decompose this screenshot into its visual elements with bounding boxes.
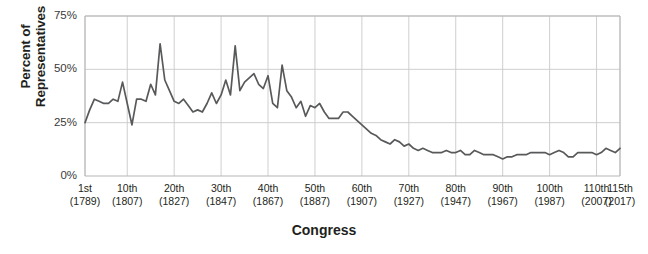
x-tick-congress-label: 10th <box>117 182 137 194</box>
y-axis-tick-25: 25% <box>33 116 77 128</box>
x-tick-congress-label: 1st <box>78 182 92 194</box>
x-axis-title: Congress <box>0 222 648 238</box>
x-tick-year-label: (1827) <box>150 195 198 208</box>
x-axis-tick-70th: 70th(1927) <box>385 182 433 207</box>
x-tick-year-label: (1947) <box>432 195 480 208</box>
x-tick-congress-label: 115th <box>607 182 633 194</box>
y-axis-tick-50: 50% <box>33 62 77 74</box>
x-tick-congress-label: 20th <box>164 182 184 194</box>
x-tick-congress-label: 30th <box>211 182 231 194</box>
x-axis-tick-50th: 50th(1887) <box>291 182 339 207</box>
x-tick-year-label: (1867) <box>244 195 292 208</box>
data-line-percent-of-representatives <box>85 44 620 159</box>
x-tick-year-label: (1927) <box>385 195 433 208</box>
x-axis-tick-100th: 100th(1987) <box>526 182 574 207</box>
x-tick-congress-label: 90th <box>492 182 512 194</box>
x-axis-tick-10th: 10th(1807) <box>103 182 151 207</box>
x-axis-tick-90th: 90th(1967) <box>479 182 527 207</box>
x-tick-year-label: (1789) <box>61 195 109 208</box>
x-tick-congress-label: 70th <box>399 182 419 194</box>
x-tick-year-label: (1967) <box>479 195 527 208</box>
x-axis-tick-40th: 40th(1867) <box>244 182 292 207</box>
x-tick-year-label: (1887) <box>291 195 339 208</box>
x-tick-congress-label: 50th <box>305 182 325 194</box>
x-tick-congress-label: 80th <box>446 182 466 194</box>
x-tick-year-label: (1907) <box>338 195 386 208</box>
x-tick-year-label: (1847) <box>197 195 245 208</box>
y-axis-tick-75: 75% <box>33 9 77 21</box>
x-axis-tick-30th: 30th(1847) <box>197 182 245 207</box>
x-axis-tick-80th: 80th(1947) <box>432 182 480 207</box>
x-axis-tick-115th: 115th(2017) <box>596 182 644 207</box>
x-tick-congress-label: 60th <box>352 182 372 194</box>
x-axis-tick-60th: 60th(1907) <box>338 182 386 207</box>
x-tick-year-label: (2017) <box>596 195 644 208</box>
x-tick-congress-label: 100th <box>536 182 562 194</box>
x-tick-year-label: (1987) <box>526 195 574 208</box>
y-axis-tick-0: 0% <box>33 169 77 181</box>
x-axis-tick-20th: 20th(1827) <box>150 182 198 207</box>
x-tick-congress-label: 40th <box>258 182 278 194</box>
x-axis-tick-1st: 1st(1789) <box>61 182 109 207</box>
chart-plot-area <box>0 0 648 254</box>
x-tick-year-label: (1807) <box>103 195 151 208</box>
chart-figure: Percent of Representatives Congress 0%25… <box>0 0 648 254</box>
